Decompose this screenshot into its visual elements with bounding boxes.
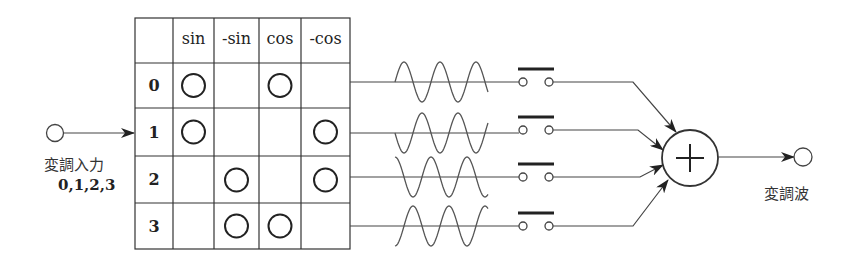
switch-row-0[interactable] — [518, 69, 554, 86]
switch-row-3[interactable] — [518, 213, 554, 230]
mark-circle-icon — [269, 215, 292, 238]
carrier-wires — [350, 82, 519, 226]
switch-terminal-icon — [545, 222, 553, 230]
summer-input-3 — [553, 180, 668, 226]
switch-row-2[interactable] — [518, 164, 554, 181]
modulation-diagram: 変調入力 0,1,2,3 sin -sin cos -cos 0 1 2 3 — [0, 0, 865, 266]
mark-circle-icon — [225, 215, 248, 238]
row-label-1: 1 — [148, 123, 159, 142]
mark-circle-icon — [314, 169, 337, 192]
output-terminal-icon — [794, 148, 812, 166]
output-label: 変調波 — [764, 185, 809, 203]
mark-circle-icon — [225, 169, 248, 192]
summer-input-1 — [553, 130, 663, 150]
mark-circle-icon — [269, 74, 292, 97]
summer-inputs — [553, 82, 676, 226]
input-terminal-icon — [47, 125, 64, 142]
mark-circle-icon — [182, 74, 205, 97]
table-header: sin -sin cos -cos — [182, 29, 342, 48]
column-header-neg-sin: -sin — [222, 29, 251, 48]
modulation-table — [135, 18, 350, 249]
switch-terminal-icon — [545, 173, 553, 181]
row-label-0: 0 — [148, 76, 159, 95]
switch-terminal-icon — [519, 78, 527, 86]
column-header-cos: cos — [267, 29, 294, 48]
row-label-2: 2 — [148, 170, 159, 189]
switch-terminal-icon — [519, 222, 527, 230]
input-label: 変調入力 — [44, 156, 104, 174]
summer-input-2 — [553, 165, 663, 177]
input-values-label: 0,1,2,3 — [58, 176, 115, 194]
switch-terminal-icon — [519, 173, 527, 181]
output-node: 変調波 — [718, 148, 812, 203]
mark-circle-icon — [182, 121, 205, 144]
column-header-sin: sin — [182, 29, 206, 48]
row-label-3: 3 — [148, 217, 159, 236]
carrier-waves — [395, 62, 488, 246]
column-header-neg-cos: -cos — [309, 29, 341, 48]
switch-terminal-icon — [545, 126, 553, 134]
summer-node — [662, 130, 718, 186]
table-border — [135, 18, 350, 249]
switch-terminal-icon — [545, 78, 553, 86]
switches — [518, 69, 554, 230]
mark-circle-icon — [314, 121, 337, 144]
summer-input-0 — [553, 82, 676, 132]
input-node: 変調入力 0,1,2,3 — [44, 125, 134, 195]
switch-row-1[interactable] — [518, 117, 554, 134]
switch-terminal-icon — [519, 126, 527, 134]
